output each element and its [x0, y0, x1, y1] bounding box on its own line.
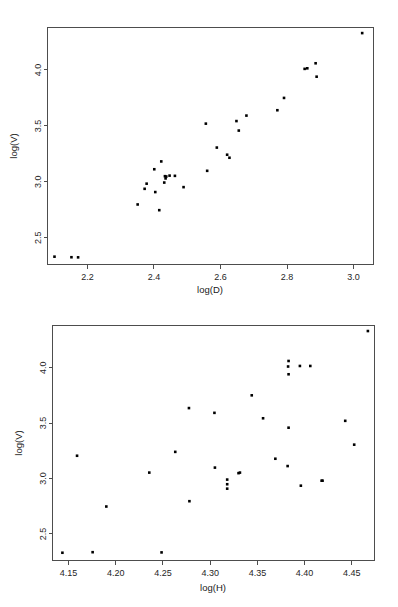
data-point — [136, 203, 139, 206]
data-point — [321, 479, 324, 482]
x-tick-label: 2.2 — [81, 272, 94, 282]
x-tick-label: 4.45 — [343, 568, 361, 578]
x-tick-label: 3.0 — [347, 272, 360, 282]
data-point — [174, 175, 177, 178]
data-point — [228, 156, 231, 159]
y-tick-label: 3.0 — [34, 176, 44, 189]
y-tick-label: 3.0 — [39, 472, 49, 485]
data-point — [250, 394, 253, 397]
data-point — [367, 330, 370, 333]
data-point — [274, 457, 277, 460]
y-tick-label: 4.0 — [34, 64, 44, 77]
data-point — [188, 407, 191, 410]
data-point — [299, 365, 302, 368]
y-tick-label: 3.5 — [34, 120, 44, 133]
data-point — [174, 451, 177, 454]
x-tick-label: 4.15 — [60, 568, 78, 578]
x-axis-ticks: 2.22.42.62.83.0 — [81, 265, 360, 282]
plot-box — [48, 28, 374, 265]
data-point — [158, 209, 161, 212]
data-point — [283, 97, 286, 100]
data-point — [309, 365, 312, 368]
x-axis-title: log(H) — [200, 582, 226, 593]
data-point — [226, 487, 229, 490]
plot-frame-top — [48, 28, 374, 265]
data-point — [182, 186, 185, 189]
x-tick-label: 4.20 — [107, 568, 125, 578]
x-tick-label: 2.6 — [214, 272, 227, 282]
data-point — [315, 75, 318, 78]
data-point — [160, 160, 163, 163]
data-point — [206, 170, 209, 173]
data-point — [77, 256, 80, 259]
y-axis-title: log(V) — [13, 430, 24, 455]
y-tick-label: 2.5 — [34, 231, 44, 244]
data-point — [237, 129, 240, 132]
data-point — [303, 68, 306, 71]
data-point — [287, 360, 290, 363]
data-point — [287, 373, 290, 376]
data-point — [226, 478, 229, 481]
data-points — [61, 330, 369, 554]
data-point — [361, 32, 364, 35]
data-point — [160, 551, 163, 554]
data-point — [76, 454, 79, 457]
data-point — [143, 188, 146, 191]
data-point — [287, 426, 290, 429]
data-point — [286, 465, 289, 468]
x-axis-ticks: 4.154.204.254.304.354.404.45 — [60, 561, 361, 578]
data-point — [314, 62, 317, 65]
data-point — [165, 175, 168, 178]
data-point — [226, 153, 229, 156]
x-tick-label: 4.30 — [201, 568, 219, 578]
data-point — [148, 471, 151, 474]
data-point — [91, 551, 94, 554]
data-point — [205, 122, 208, 125]
data-point — [154, 191, 157, 194]
data-point — [153, 168, 156, 171]
y-axis-ticks: 2.53.03.54.0 — [34, 64, 48, 244]
x-tick-label: 2.8 — [281, 272, 294, 282]
x-axis-title: log(D) — [197, 284, 223, 295]
data-point — [344, 420, 347, 423]
data-point — [214, 466, 217, 469]
y-tick-label: 4.0 — [39, 361, 49, 374]
data-point — [168, 174, 171, 177]
y-tick-label: 2.5 — [39, 528, 49, 541]
data-point — [239, 471, 242, 474]
chart-panel-bottom: 4.154.204.254.304.354.404.45 2.53.03.54.… — [0, 303, 398, 607]
y-axis-ticks: 2.53.03.54.0 — [39, 361, 53, 540]
data-point — [53, 255, 56, 258]
data-point — [262, 417, 265, 420]
plot-box — [53, 326, 375, 561]
data-point — [61, 551, 64, 554]
scatter-plot-logH-logV: 4.154.204.254.304.354.404.45 2.53.03.54.… — [0, 303, 398, 607]
scatter-plot-logD-logV: 2.22.42.62.83.0 2.53.03.54.0 log(D) log(… — [0, 0, 398, 303]
data-point — [300, 484, 303, 487]
data-point — [245, 114, 248, 117]
data-point — [213, 412, 216, 415]
plot-frame-bottom — [53, 326, 375, 561]
data-point — [235, 120, 238, 123]
x-tick-label: 4.25 — [154, 568, 172, 578]
x-tick-label: 2.4 — [148, 272, 161, 282]
data-point — [353, 443, 356, 446]
data-point — [145, 182, 148, 185]
data-point — [188, 500, 191, 503]
data-point — [163, 181, 166, 184]
data-point — [306, 67, 309, 70]
data-points — [53, 32, 363, 259]
data-point — [70, 256, 73, 259]
data-point — [226, 483, 229, 486]
data-point — [216, 146, 219, 149]
data-point — [105, 505, 108, 508]
chart-panel-top: 2.22.42.62.83.0 2.53.03.54.0 log(D) log(… — [0, 0, 398, 303]
data-point — [276, 109, 279, 112]
y-tick-label: 3.5 — [39, 417, 49, 430]
x-tick-label: 4.35 — [249, 568, 267, 578]
data-point — [287, 365, 290, 368]
x-tick-label: 4.40 — [296, 568, 314, 578]
y-axis-title: log(V) — [8, 133, 19, 158]
